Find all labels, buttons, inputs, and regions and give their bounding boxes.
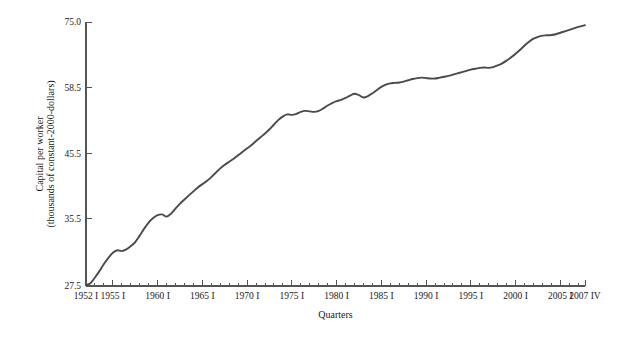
y-tick-label: 45.5 [64,149,81,159]
y-tick-labels: 75.058.545.535.527.5 [64,17,81,291]
y-tick-label: 58.5 [64,83,81,93]
x-tick-label: 2000 I [503,291,528,301]
x-tick-label: 1970 I [235,291,260,301]
x-tick-label: 1980 I [324,291,349,301]
y-tick-label: 75.0 [64,17,81,27]
data-series-group [86,25,585,285]
x-tick-label: 2007 IV [569,291,601,301]
capital-per-worker-line-chart: 75.058.545.535.527.5 1952 I1955 I1960 I1… [0,0,618,337]
x-tick-label: 1985 I [369,291,394,301]
chart-page: 75.058.545.535.527.5 1952 I1955 I1960 I1… [0,0,618,337]
x-axis-title: Quarters [318,309,353,320]
x-tick-marks [86,280,585,286]
y-axis-title-line2: (thousands of constant-2000-dollars) [45,80,57,227]
x-tick-label: 1960 I [145,291,170,301]
y-tick-label: 35.5 [64,214,81,224]
x-tick-label: 1965 I [190,291,215,301]
x-tick-label: 1975 I [280,291,305,301]
x-tick-label: 1955 I [101,291,126,301]
x-tick-label: 1952 I [74,291,99,301]
y-tick-label: 27.5 [64,281,81,291]
series-line-capital-per-worker [86,25,585,285]
x-tick-labels: 1952 I1955 I1960 I1965 I1970 I1975 I1980… [74,291,601,301]
x-tick-label: 1990 I [414,291,439,301]
y-tick-marks [86,22,92,286]
x-tick-label: 1995 I [459,291,484,301]
y-axis-title-line1: Capital per worker [34,116,45,192]
axes [86,22,585,286]
